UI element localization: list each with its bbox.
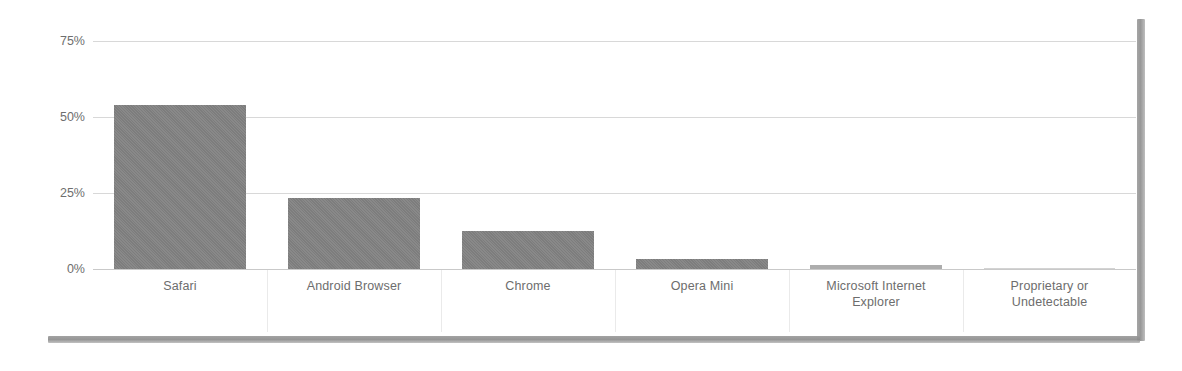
page-shadow-bottom <box>48 336 1140 343</box>
x-axis-label-line: Android Browser <box>267 278 441 294</box>
x-axis-label-opera-mini: Opera Mini <box>615 278 789 294</box>
x-axis-label-proprietary-or-undetectable: Proprietary or Undetectable <box>963 278 1136 310</box>
bar-opera-mini[interactable] <box>636 259 768 269</box>
bar-slot-android-browser <box>267 41 441 269</box>
y-axis-tick-label: 50% <box>0 110 85 124</box>
x-axis-label-line: Opera Mini <box>615 278 789 294</box>
x-axis-label-line: Safari <box>93 278 267 294</box>
bar-safari[interactable] <box>114 105 246 269</box>
bar-series <box>93 41 1136 269</box>
y-axis-tick-label: 0% <box>0 262 85 276</box>
bar-chrome[interactable] <box>462 231 594 269</box>
y-axis-tick-label: 25% <box>0 186 85 200</box>
bar-slot-proprietary-or-undetectable <box>963 41 1136 269</box>
bar-slot-chrome <box>441 41 615 269</box>
bar-slot-microsoft-internet-explorer <box>789 41 963 269</box>
y-axis-tick-label: 75% <box>0 34 85 48</box>
x-axis-label-line: Proprietary or <box>963 278 1136 294</box>
bar-proprietary-or-undetectable[interactable] <box>984 268 1115 269</box>
bar-slot-opera-mini <box>615 41 789 269</box>
x-axis-label-safari: Safari <box>93 278 267 294</box>
x-axis-label-line: Microsoft Internet <box>789 278 963 294</box>
bar-chart: 75% 50% 25% 0% <box>0 0 1182 371</box>
x-axis: Safari Android Browser Chrome Opera Mini… <box>93 270 1136 332</box>
page-shadow-right <box>1137 19 1145 341</box>
bar-slot-safari <box>93 41 267 269</box>
x-axis-label-line: Undetectable <box>963 294 1136 310</box>
x-axis-label-android-browser: Android Browser <box>267 278 441 294</box>
x-axis-label-line: Explorer <box>789 294 963 310</box>
x-axis-label-line: Chrome <box>441 278 615 294</box>
bar-android-browser[interactable] <box>288 198 420 269</box>
bar-microsoft-internet-explorer[interactable] <box>810 265 942 269</box>
x-axis-label-microsoft-internet-explorer: Microsoft Internet Explorer <box>789 278 963 310</box>
x-axis-label-chrome: Chrome <box>441 278 615 294</box>
